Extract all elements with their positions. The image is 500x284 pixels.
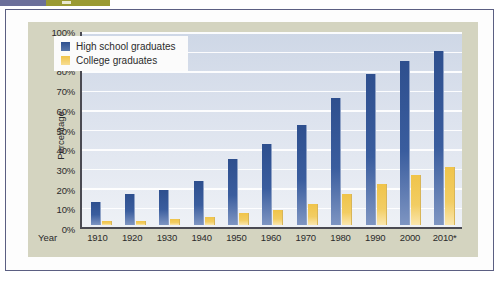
bar-college [342, 194, 352, 225]
bar-college [273, 210, 283, 225]
legend-item-college: College graduates [61, 55, 176, 66]
y-axis-tick-label: 30% [57, 164, 75, 175]
bar-high-school [262, 144, 272, 225]
legend-swatch-high-school [61, 42, 70, 51]
bar-college [445, 167, 455, 225]
legend-label-college: College graduates [76, 55, 157, 66]
y-axis-tick-label: 70% [57, 86, 75, 97]
y-axis-tick-label: 20% [57, 184, 75, 195]
y-axis-tick-label: 10% [57, 204, 75, 215]
x-axis-tick-label: 1970 [288, 232, 323, 243]
top-strip-marker [62, 1, 71, 4]
top-strip-olive-segment [46, 0, 110, 6]
bar-group [256, 32, 290, 225]
bar-group [290, 32, 324, 225]
top-strip-blue-segment [0, 0, 46, 6]
bar-high-school [91, 202, 101, 225]
figure-panel: Percentage Year 100%90%80%70%60%50%40%30… [28, 22, 478, 257]
x-axis-title: Year [38, 232, 57, 243]
bar-high-school [434, 51, 444, 225]
bar-college [411, 175, 421, 225]
y-axis-tick-label: 60% [57, 105, 75, 116]
x-axis-tick-label: 1940 [184, 232, 219, 243]
legend-item-high-school: High school graduates [61, 41, 176, 52]
bar-group [325, 32, 359, 225]
page-top-strip [0, 0, 110, 6]
bar-college [377, 184, 387, 225]
bar-college [239, 213, 249, 225]
bar-high-school [125, 194, 135, 225]
bar-group [393, 32, 427, 225]
page-card: Percentage Year 100%90%80%70%60%50%40%30… [5, 9, 494, 271]
bar-high-school [159, 190, 169, 225]
y-axis-tick-label: 50% [57, 125, 75, 136]
bar-high-school [366, 74, 376, 225]
bar-group [359, 32, 393, 225]
bar-college [102, 221, 112, 225]
bar-group [187, 32, 221, 225]
legend-swatch-college [61, 56, 70, 65]
x-axis-tick-label: 1980 [323, 232, 358, 243]
bar-high-school [297, 125, 307, 225]
x-axis-ticks: 1910192019301940195019601970198019902000… [80, 232, 462, 243]
bar-group [221, 32, 255, 225]
bar-high-school [228, 159, 238, 225]
chart-legend: High school graduates College graduates [54, 36, 188, 71]
x-axis-tick-label: 1920 [115, 232, 150, 243]
x-axis-tick-label: 2010* [427, 232, 462, 243]
x-axis-tick-label: 1990 [358, 232, 393, 243]
x-axis-tick-label: 1910 [80, 232, 115, 243]
bar-high-school [194, 181, 204, 225]
x-axis-tick-label: 1950 [219, 232, 254, 243]
x-axis-tick-label: 1930 [149, 232, 184, 243]
bar-college [308, 204, 318, 225]
legend-label-high-school: High school graduates [76, 41, 176, 52]
bar-college [205, 217, 215, 225]
bar-group [428, 32, 462, 225]
bar-college [136, 221, 146, 225]
x-axis-tick-label: 1960 [254, 232, 289, 243]
bar-college [170, 219, 180, 225]
bar-high-school [400, 61, 410, 225]
y-axis-tick-label: 40% [57, 145, 75, 156]
y-axis-tick-label: 0% [62, 224, 75, 235]
bar-high-school [331, 98, 341, 225]
x-axis-tick-label: 2000 [393, 232, 428, 243]
